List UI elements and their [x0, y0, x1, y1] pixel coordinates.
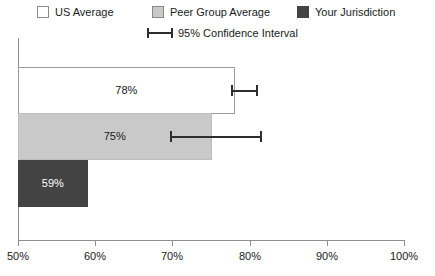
bar-value-label-peer-group-average: 75% — [104, 130, 126, 143]
legend-item-peer-group-average: Peer Group Average — [152, 6, 270, 18]
error-bar-us-average — [231, 85, 258, 96]
legend-swatch-your-jurisdiction-icon — [297, 6, 309, 18]
chart-legend-row-primary: US Average Peer Group Average Your Juris… — [0, 6, 435, 22]
x-axis-label-90: 90% — [316, 250, 338, 263]
x-axis-tick-100 — [404, 241, 405, 246]
x-axis-tick-60 — [95, 241, 96, 246]
error-bar-peer-group-average — [170, 131, 261, 142]
legend-swatch-us-average-icon — [37, 6, 49, 18]
x-axis-label-50: 50% — [7, 250, 29, 263]
legend-item-your-jurisdiction: Your Jurisdiction — [297, 6, 395, 18]
x-axis-tick-80 — [250, 241, 251, 246]
x-axis-label-70: 70% — [161, 250, 183, 263]
legend-label-us-average: US Average — [55, 6, 114, 18]
bar-chart: US Average Peer Group Average Your Juris… — [0, 0, 435, 276]
x-axis-tick-70 — [172, 241, 173, 246]
x-axis-label-100: 100% — [390, 250, 418, 263]
plot-area: 78% 75% 59% — [18, 38, 405, 241]
x-axis-tick-50 — [18, 241, 19, 246]
x-axis-label-80: 80% — [239, 250, 261, 263]
x-axis-label-60: 60% — [84, 250, 106, 263]
bar-value-label-your-jurisdiction: 59% — [42, 177, 64, 190]
bar-value-label-us-average: 78% — [115, 84, 137, 97]
x-axis-tick-90 — [327, 241, 328, 246]
legend-label-peer-group-average: Peer Group Average — [170, 6, 270, 18]
legend-swatch-peer-group-average-icon — [152, 6, 164, 18]
legend-item-us-average: US Average — [37, 6, 114, 18]
legend-label-your-jurisdiction: Your Jurisdiction — [315, 6, 395, 18]
